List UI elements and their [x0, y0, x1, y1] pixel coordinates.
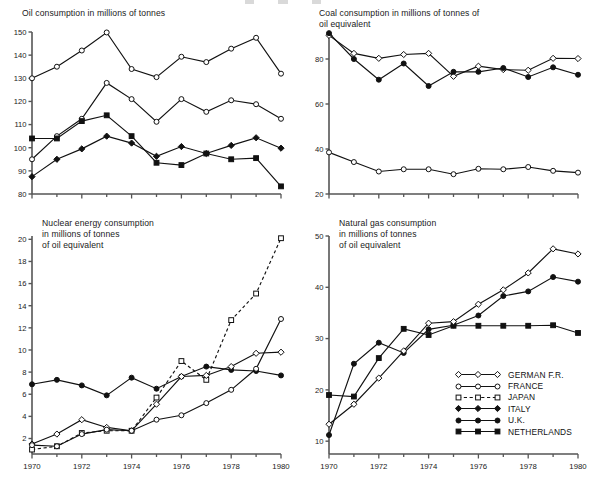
- legend-label-italy: ITALY: [508, 404, 531, 414]
- data-point-france: [551, 168, 556, 173]
- x-tick-label: 1976: [470, 462, 487, 471]
- data-point-japan: [179, 359, 184, 364]
- legend-marker: [476, 429, 481, 434]
- legend-label-uk: U.K.: [508, 415, 525, 425]
- data-point-german-f-r: [204, 60, 209, 65]
- data-point-u-k: [426, 84, 431, 89]
- x-tick-label: 1974: [123, 462, 141, 471]
- data-point-france: [501, 167, 506, 172]
- data-point-u-k: [54, 377, 59, 382]
- legend-marker: [494, 372, 500, 378]
- data-point-u-k: [351, 57, 356, 62]
- y-tick-label: 110: [14, 120, 26, 129]
- data-point-netherlands: [129, 134, 134, 139]
- legend-key-france: [455, 381, 501, 392]
- y-tick-label: 80: [18, 190, 26, 199]
- data-point-france: [451, 172, 456, 177]
- data-point-german-f-r: [401, 51, 407, 57]
- y-tick-label: 130: [14, 74, 27, 83]
- data-point-france: [154, 119, 159, 124]
- data-point-netherlands: [179, 163, 184, 168]
- y-tick-label: 100: [14, 144, 27, 153]
- legend-key-german-fr: [455, 369, 501, 380]
- data-point-u-k: [351, 361, 356, 366]
- data-point-japan: [229, 318, 234, 323]
- data-point-german-f-r: [179, 54, 184, 59]
- data-point-german-f-r: [54, 431, 60, 437]
- data-point-france: [401, 167, 406, 172]
- data-point-france: [204, 109, 209, 114]
- legend-marker: [476, 384, 481, 389]
- data-point-u-k: [79, 383, 84, 388]
- data-point-italy: [104, 133, 110, 139]
- data-point-netherlands: [501, 323, 506, 328]
- data-point-u-k: [30, 382, 35, 387]
- plot-oil: 8090100110120130140150: [0, 22, 297, 208]
- data-point-german-f-r: [279, 71, 284, 76]
- data-point-italy: [253, 135, 259, 141]
- legend-marker: [455, 372, 461, 378]
- legend-item: NETHERLANDS: [455, 426, 572, 437]
- y-tick-label: 20: [18, 235, 26, 244]
- series-line-france: [329, 152, 578, 174]
- legend-marker: [456, 395, 461, 400]
- data-point-italy: [79, 146, 85, 152]
- y-tick-label: 12: [18, 324, 26, 333]
- data-point-u-k: [526, 289, 531, 294]
- y-tick-label: 20: [315, 190, 323, 199]
- y-tick-label: 4: [22, 412, 26, 421]
- data-point-german-f-r: [54, 64, 59, 69]
- legend-item: FRANCE: [455, 380, 572, 391]
- data-point-u-k: [327, 433, 332, 438]
- x-tick-label: 1970: [23, 462, 41, 471]
- data-point-u-k: [426, 327, 431, 332]
- data-point-german-f-r: [254, 35, 259, 40]
- legend-marker: [456, 384, 461, 389]
- legend-item: ITALY: [455, 403, 572, 414]
- data-point-u-k: [129, 375, 134, 380]
- data-point-u-k: [154, 386, 159, 391]
- data-point-france: [476, 166, 481, 171]
- data-point-u-k: [526, 75, 531, 80]
- data-point-netherlands: [104, 113, 109, 118]
- data-point-netherlands: [327, 393, 332, 398]
- data-point-netherlands: [376, 356, 381, 361]
- legend-item: GERMAN F.R.: [455, 369, 572, 380]
- data-point-german-f-r: [154, 75, 159, 80]
- legend-label-german-fr: GERMAN F.R.: [508, 370, 564, 380]
- legend-item: JAPAN: [455, 392, 572, 403]
- panel-oil-title: Oil consumption in millions of tonnes: [22, 8, 165, 19]
- data-point-france: [54, 444, 59, 449]
- y-tick-label: 20: [315, 386, 323, 395]
- legend-label-japan: JAPAN: [508, 392, 535, 402]
- legend-marker: [456, 429, 461, 434]
- data-point-netherlands: [576, 331, 581, 336]
- legend-marker: [476, 395, 481, 400]
- data-point-france: [104, 80, 109, 85]
- legend-marker: [475, 406, 481, 412]
- data-point-netherlands: [551, 323, 556, 328]
- data-point-german-f-r: [525, 67, 531, 73]
- x-tick-label: 1970: [320, 462, 338, 471]
- y-tick-label: 80: [315, 55, 323, 64]
- chart-canvas: 8090100110120130140150: [14, 28, 284, 199]
- legend-marker: [475, 372, 481, 378]
- data-point-netherlands: [401, 326, 406, 331]
- data-point-japan: [254, 291, 259, 296]
- y-tick-label: 150: [14, 28, 27, 37]
- data-point-u-k: [376, 340, 381, 345]
- data-point-france: [351, 160, 356, 165]
- data-point-netherlands: [352, 394, 357, 399]
- chart-legend: GERMAN F.R. FRANCE JAPAN ITALY U.K. NETH…: [455, 369, 572, 437]
- y-tick-label: 6: [22, 390, 26, 399]
- legend-key-netherlands: [455, 426, 501, 437]
- data-point-german-f-r: [500, 287, 506, 293]
- y-tick-label: 16: [18, 279, 26, 288]
- x-tick-label: 1976: [173, 462, 190, 471]
- y-tick-label: 40: [315, 283, 323, 292]
- data-point-france: [30, 443, 35, 448]
- data-point-japan: [279, 236, 284, 241]
- data-point-netherlands: [476, 323, 481, 328]
- data-point-france: [279, 316, 284, 321]
- scan-edge-artifact: [0, 0, 594, 5]
